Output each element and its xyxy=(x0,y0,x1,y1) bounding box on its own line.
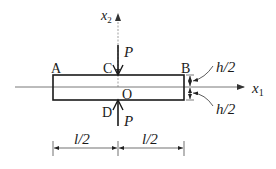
half-height-top-label: h/2 xyxy=(216,59,236,75)
point-b-label: B xyxy=(181,61,190,76)
leader-top xyxy=(193,66,213,81)
bottom-load-label: P xyxy=(123,113,133,129)
beam-rectangle xyxy=(53,75,184,100)
point-a-label: A xyxy=(51,61,62,76)
point-c-label: C xyxy=(103,61,112,76)
half-length-right-label: l/2 xyxy=(142,131,158,147)
half-height-bottom-label: h/2 xyxy=(216,101,236,117)
leader-bottom xyxy=(193,93,213,106)
point-d-label: D xyxy=(102,105,112,120)
x1-axis-label: x1 xyxy=(251,80,264,98)
top-load-label: P xyxy=(123,44,133,60)
point-o-label: O xyxy=(122,87,132,102)
half-length-left-label: l/2 xyxy=(74,131,90,147)
beam-diagram: x1 x2 A C B O D P P h/2 h/2 l/2 l/2 xyxy=(0,0,276,169)
x2-axis-label: x2 xyxy=(100,8,112,25)
